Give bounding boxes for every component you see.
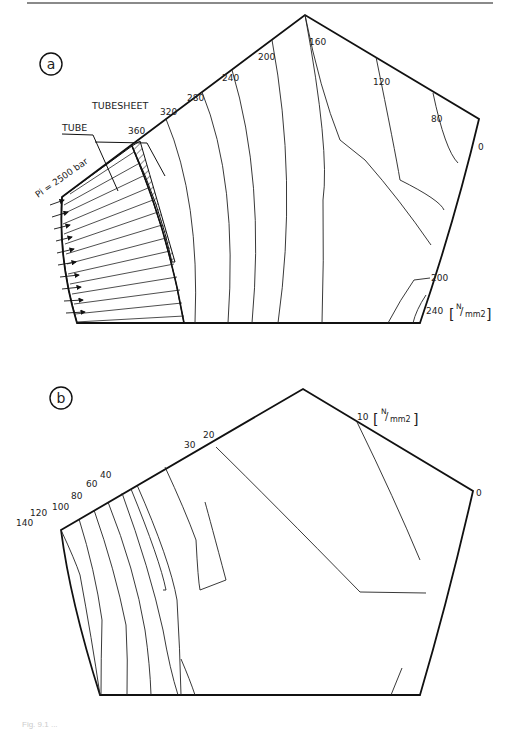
figure-caption: Fig. 9.1 ... — [22, 720, 58, 729]
b-contour-label-20: 20 — [203, 430, 215, 440]
b-contour-label-0: 0 — [476, 488, 482, 498]
b-contour-label-100: 100 — [52, 502, 69, 512]
contour-label-right-240: 240 — [426, 306, 443, 316]
contour-label-280: 280 — [187, 93, 204, 103]
panel-a: a — [33, 15, 491, 323]
panel-b-unit: [ N / mm2 ] — [373, 407, 418, 427]
contour-label-0: 0 — [478, 142, 484, 152]
svg-text:mm2: mm2 — [390, 415, 411, 424]
contour-label-80: 80 — [431, 114, 443, 124]
contour-label-320: 320 — [160, 107, 177, 117]
tube-label: TUBE — [61, 122, 87, 133]
pressure-label: Pi = 2500 bar — [33, 156, 90, 200]
svg-text:]: ] — [413, 411, 418, 427]
b-contour-label-10: 10 — [357, 412, 369, 422]
b-contour-label-60: 60 — [86, 479, 98, 489]
b-contour-label-30: 30 — [184, 440, 196, 450]
svg-text:mm2: mm2 — [465, 310, 486, 319]
contour-label-right-200: 200 — [431, 273, 448, 283]
contour-label-160: 160 — [309, 37, 326, 47]
stress-contour-figure: a — [0, 0, 508, 731]
panel-b-label: b — [57, 390, 66, 406]
panel-b-contours — [61, 422, 426, 695]
b-contour-label-80: 80 — [71, 491, 83, 501]
contour-label-120: 120 — [373, 77, 390, 87]
svg-text:]: ] — [486, 306, 491, 322]
svg-text:/: / — [460, 306, 464, 317]
contour-label-240: 240 — [222, 73, 239, 83]
b-contour-label-40: 40 — [100, 470, 112, 480]
contour-label-200: 200 — [258, 52, 275, 62]
svg-text:[: [ — [373, 411, 378, 427]
contour-label-360: 360 — [128, 126, 145, 136]
tubesheet-label: TUBESHEET — [91, 100, 148, 111]
tube-interface — [132, 146, 184, 323]
svg-text:/: / — [385, 411, 389, 422]
panel-a-contours — [166, 15, 458, 323]
panel-b: b 140 120 100 80 60 40 30 20 10 0 [ — [16, 387, 482, 695]
b-contour-label-140: 140 — [16, 518, 33, 528]
svg-text:[: [ — [449, 306, 454, 322]
b-contour-label-120: 120 — [30, 508, 47, 518]
panel-a-label: a — [47, 56, 56, 72]
panel-a-unit: [ N / mm2 ] — [449, 302, 491, 322]
